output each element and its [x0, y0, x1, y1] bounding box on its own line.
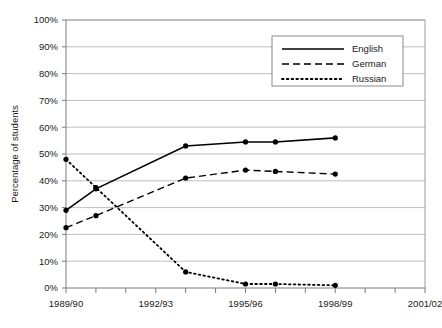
x-axis-ticks	[66, 288, 425, 293]
y-axis-tick-label: 30%	[39, 202, 59, 213]
y-axis-tick-label: 100%	[34, 14, 59, 25]
data-point	[273, 169, 278, 174]
data-point	[63, 157, 68, 162]
data-point	[63, 208, 68, 213]
x-axis-tick-label: 1992/93	[139, 298, 173, 309]
legend-label-russian: Russian	[352, 73, 386, 84]
data-point	[333, 135, 338, 140]
y-axis-tick-label: 50%	[39, 148, 59, 159]
series-line-german	[66, 170, 335, 228]
data-point	[273, 139, 278, 144]
x-axis-tick-label: 1995/96	[228, 298, 262, 309]
x-axis-labels: 1989/901992/931995/961998/992001/02	[49, 298, 442, 309]
legend-label-german: German	[352, 58, 386, 69]
y-axis-tick-label: 40%	[39, 175, 59, 186]
y-axis-tick-label: 70%	[39, 95, 59, 106]
data-point	[243, 281, 248, 286]
data-point	[183, 269, 188, 274]
data-point	[273, 281, 278, 286]
legend: EnglishGermanRussian	[272, 36, 403, 86]
x-axis-tick-label: 2001/02	[408, 298, 442, 309]
x-axis-tick-label: 1998/99	[318, 298, 352, 309]
data-point	[333, 283, 338, 288]
data-point	[63, 225, 68, 230]
series-line-english	[66, 138, 335, 210]
y-axis-tick-label: 10%	[39, 256, 59, 267]
y-axis-title: Percentage of students	[9, 105, 20, 203]
y-axis-tick-label: 80%	[39, 68, 59, 79]
data-point	[243, 139, 248, 144]
legend-label-english: English	[352, 43, 383, 54]
data-point	[183, 176, 188, 181]
y-axis-tick-label: 20%	[39, 229, 59, 240]
data-point	[93, 185, 98, 190]
series-line-russian	[66, 159, 335, 285]
data-point	[243, 167, 248, 172]
data-point	[183, 143, 188, 148]
data-point	[333, 172, 338, 177]
y-axis-tick-label: 90%	[39, 41, 59, 52]
series-english	[63, 135, 337, 213]
line-chart: 0%10%20%30%40%50%60%70%80%90%100%1989/90…	[0, 0, 442, 328]
chart-canvas: 0%10%20%30%40%50%60%70%80%90%100%1989/90…	[0, 0, 442, 328]
series-german	[63, 167, 337, 230]
y-axis-tick-label: 60%	[39, 122, 59, 133]
data-point	[93, 213, 98, 218]
x-axis-tick-label: 1989/90	[49, 298, 83, 309]
y-axis-tick-label: 0%	[44, 282, 58, 293]
